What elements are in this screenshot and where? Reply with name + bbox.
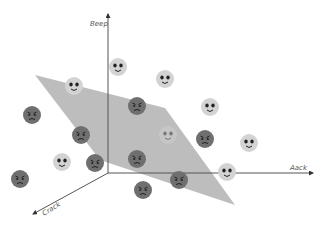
sad-face-icon	[23, 106, 41, 124]
sad-face-icon	[11, 170, 29, 188]
sad-face-icon	[72, 126, 90, 144]
sad-face-icon	[170, 171, 188, 189]
hyperplane-diagram: Beep Aack Crack	[0, 0, 325, 229]
x-axis-label: Aack	[289, 164, 308, 172]
sad-face-icon	[134, 181, 152, 199]
happy-face-icon	[65, 77, 83, 95]
y-axis-label: Beep	[90, 20, 108, 28]
sad-face-icon	[86, 154, 104, 172]
faces-behind-plane	[159, 126, 177, 144]
sad-face-icon	[196, 130, 214, 148]
sad-face-icon	[128, 150, 146, 168]
happy-face-icon	[156, 70, 174, 88]
happy-face-icon	[240, 134, 258, 152]
happy-face-icon	[201, 98, 219, 116]
happy-face-icon	[109, 58, 127, 76]
happy-face-icon	[159, 126, 177, 144]
sad-face-icon	[128, 97, 146, 115]
z-axis-label: Crack	[41, 200, 63, 218]
happy-face-icon	[53, 153, 71, 171]
happy-face-icon	[218, 163, 236, 181]
